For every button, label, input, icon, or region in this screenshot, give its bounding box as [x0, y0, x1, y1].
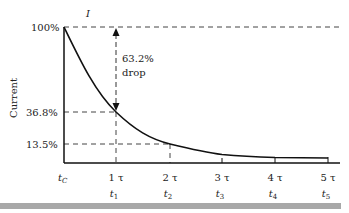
tau-label-3: 3 τ	[214, 172, 230, 183]
y-axis-title: Current	[8, 78, 19, 118]
tau-label-5: 5 τ	[320, 172, 336, 183]
drop-label-2: drop	[122, 67, 146, 78]
y-label-100: 100%	[31, 22, 60, 33]
t-label-3: t3	[216, 188, 225, 201]
t-label-2: t2	[164, 188, 173, 201]
y-label-135: 13.5%	[26, 139, 58, 150]
arrow-head-up-icon	[113, 28, 120, 36]
decay-curve	[64, 27, 328, 158]
tau-label-1: 1 τ	[108, 172, 124, 183]
y-label-368: 36.8%	[26, 107, 58, 118]
t-label-1: t1	[110, 188, 119, 201]
tau-label-2: 2 τ	[162, 172, 178, 183]
drop-label-1: 63.2%	[122, 53, 154, 64]
t-label-5: t5	[322, 188, 331, 201]
t-label-4: t4	[269, 188, 278, 201]
tau-label-4: 4 τ	[267, 172, 283, 183]
origin-label: tC	[58, 172, 68, 185]
curve-label: I	[85, 8, 91, 19]
bottom-bar	[0, 203, 341, 209]
rc-decay-chart: I 100% 36.8% 13.5% Current 63.2% drop tC…	[0, 0, 349, 213]
